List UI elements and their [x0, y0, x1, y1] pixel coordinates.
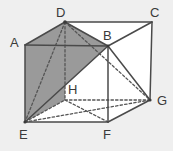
- vertex-label-F: F: [103, 128, 111, 141]
- vertex-label-G: G: [157, 94, 167, 107]
- vertex-dot-d: [63, 20, 67, 24]
- vertex-label-A: A: [10, 36, 19, 49]
- vertex-dot-g: [148, 98, 151, 101]
- geometry-figure: A B C D E F G H: [0, 0, 173, 151]
- edge-a-b: [25, 45, 108, 46]
- vertex-dot-b: [107, 45, 110, 48]
- vertex-label-E: E: [19, 128, 28, 141]
- vertex-label-D: D: [56, 6, 65, 19]
- vertex-label-C: C: [150, 6, 159, 19]
- vertex-dot-e: [23, 120, 26, 123]
- vertex-label-B: B: [103, 29, 112, 42]
- vertex-label-H: H: [68, 83, 77, 96]
